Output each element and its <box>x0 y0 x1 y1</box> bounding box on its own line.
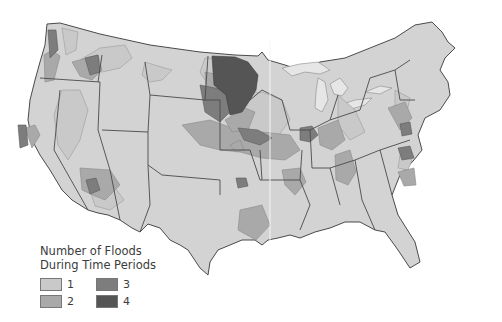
legend-swatch-3 <box>96 278 118 291</box>
legend-item-4: 4 <box>96 295 152 308</box>
legend-label-1: 1 <box>67 278 74 291</box>
legend-label-4: 4 <box>123 295 130 308</box>
legend-item-3: 3 <box>96 278 152 291</box>
legend-label-2: 2 <box>67 295 74 308</box>
legend-swatch-2 <box>40 295 62 308</box>
legend-title-line1: Number of Floods <box>40 244 156 258</box>
legend-item-2: 2 <box>40 295 96 308</box>
legend-swatch-4 <box>96 295 118 308</box>
legend-label-3: 3 <box>123 278 130 291</box>
map-legend: Number of Floods During Time Periods 1 3… <box>40 244 156 308</box>
legend-swatch-1 <box>40 278 62 291</box>
legend-title-line2: During Time Periods <box>40 258 156 272</box>
legend-item-1: 1 <box>40 278 96 291</box>
